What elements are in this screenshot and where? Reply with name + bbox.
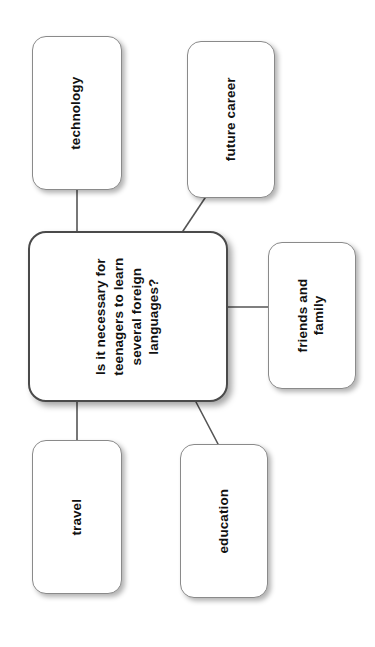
connector-central-education <box>196 402 218 444</box>
connector-central-future-career <box>183 198 205 231</box>
mind-map-node-travel[interactable]: travel <box>32 440 122 594</box>
node-label-technology: technology <box>69 76 85 149</box>
node-label-education: education <box>216 489 232 554</box>
mind-map-node-technology[interactable]: technology <box>32 36 122 190</box>
node-label-friends-and-family: friends and family <box>296 279 329 353</box>
node-label-central-question: Is it necessary for teenagers to learn s… <box>92 257 163 375</box>
mind-map-node-future-career[interactable]: future career <box>187 41 275 198</box>
mind-map-node-friends-and-family[interactable]: friends and family <box>268 242 356 389</box>
node-label-travel: travel <box>69 499 85 536</box>
mind-map-node-central-question[interactable]: Is it necessary for teenagers to learn s… <box>28 231 228 402</box>
node-label-future-career: future career <box>223 78 239 162</box>
mind-map-node-education[interactable]: education <box>180 444 268 598</box>
mind-map-canvas: technology future career Is it necessary… <box>0 0 375 647</box>
